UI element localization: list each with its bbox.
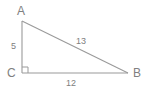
side-length-label-ab: 13 (76, 37, 86, 46)
side-length-label-cb: 12 (66, 79, 76, 88)
side-length-label-ac: 5 (11, 42, 16, 51)
right-angle-marker-icon (22, 67, 28, 73)
vertex-label-a: A (17, 5, 25, 17)
triangle-hypotenuse-ab (22, 21, 128, 73)
vertex-label-c: C (7, 67, 16, 79)
vertex-label-b: B (133, 67, 141, 79)
right-triangle-figure: A C B 5 12 13 (0, 0, 150, 94)
